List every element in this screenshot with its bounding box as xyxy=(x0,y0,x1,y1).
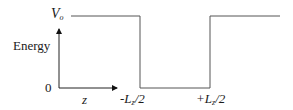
axes xyxy=(59,29,117,88)
x-axis-label: z xyxy=(82,93,87,106)
potential-label: Vo xyxy=(51,7,64,22)
right-edge-label: +Lz/2 xyxy=(196,92,225,107)
well-plot xyxy=(0,0,293,110)
zero-label: 0 xyxy=(45,81,52,94)
left-edge-label: -Lz/2 xyxy=(120,92,145,107)
potential-well-diagram: Vo Energy 0 z -Lz/2 +Lz/2 xyxy=(0,0,293,110)
y-axis-label: Energy xyxy=(13,39,50,52)
potential-profile xyxy=(71,16,280,88)
